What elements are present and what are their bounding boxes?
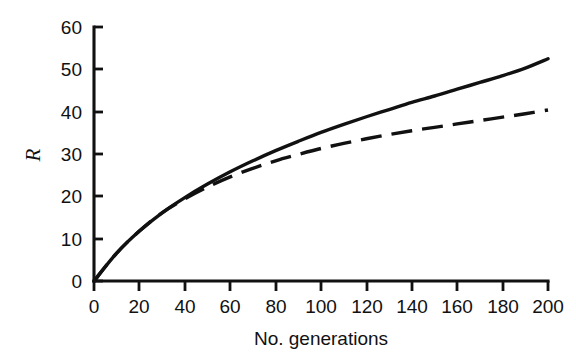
- y-tick-label: 60: [61, 17, 82, 38]
- data-series-solid: [94, 59, 548, 281]
- x-tick-label: 80: [265, 296, 286, 317]
- y-tick-label: 20: [61, 186, 82, 207]
- x-tick-label: 200: [532, 296, 564, 317]
- data-series-dashed: [94, 110, 548, 281]
- x-tick-label: 40: [174, 296, 195, 317]
- x-axis-title: No. generations: [254, 328, 388, 349]
- x-tick-label: 0: [89, 296, 100, 317]
- x-tick-label: 20: [128, 296, 149, 317]
- y-tick-label: 0: [71, 271, 82, 292]
- chart-figure: R 60 50 40 30 20 10 0: [0, 0, 576, 362]
- y-axis-title: R: [21, 148, 45, 162]
- x-tick-label: 60: [219, 296, 240, 317]
- y-tick-label: 30: [61, 144, 82, 165]
- x-tick-label: 100: [305, 296, 337, 317]
- x-tick-label: 160: [441, 296, 473, 317]
- y-tick-label: 40: [61, 102, 82, 123]
- y-tick-label: 10: [61, 229, 82, 250]
- y-tick-labels: 60 50 40 30 20 10 0: [61, 17, 82, 292]
- x-tick-label: 180: [487, 296, 519, 317]
- x-tick-label: 120: [351, 296, 383, 317]
- x-tick-labels: 0 20 40 60 80 100 120 140 160 180 200: [89, 296, 564, 317]
- x-tick-label: 140: [396, 296, 428, 317]
- y-tick-label: 50: [61, 59, 82, 80]
- line-chart: R 60 50 40 30 20 10 0: [0, 0, 576, 362]
